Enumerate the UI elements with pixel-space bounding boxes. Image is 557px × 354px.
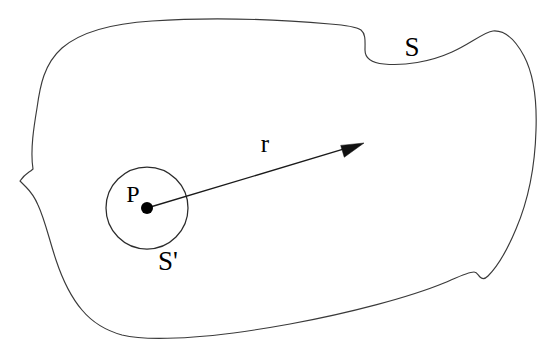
point-p-label: P (126, 181, 139, 207)
inner-surface-label: S' (158, 246, 178, 276)
figure-canvas: S S' P r (0, 0, 557, 354)
surface-diagram-svg: S S' P r (0, 0, 557, 354)
radius-vector-line (147, 148, 346, 208)
point-p-dot (141, 202, 153, 214)
outer-surface-label: S (404, 32, 419, 62)
radius-vector-label: r (261, 130, 270, 157)
outer-surface-outline (20, 19, 536, 339)
radius-vector-arrowhead (341, 143, 364, 157)
